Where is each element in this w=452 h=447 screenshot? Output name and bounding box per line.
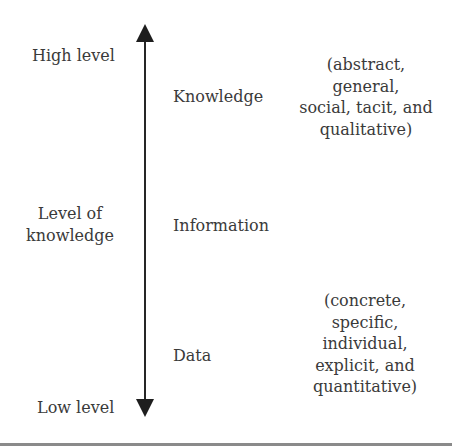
arrow-down-icon <box>136 399 154 417</box>
level-data: Data <box>173 345 211 366</box>
data-desc-line-1: (concrete, <box>302 290 428 312</box>
knowledge-desc-line-1: (abstract, <box>296 54 436 76</box>
knowledge-desc-line-2: general, <box>296 76 436 98</box>
high-level-label: High level <box>32 45 115 66</box>
data-desc-line-2: specific, <box>302 312 428 334</box>
level-knowledge: Knowledge <box>173 86 263 107</box>
low-level-label: Low level <box>37 397 114 418</box>
data-desc-line-4: explicit, and <box>302 355 428 377</box>
arrow-up-icon <box>136 24 154 42</box>
knowledge-desc-line-3: social, tacit, and <box>296 97 436 119</box>
data-description: (concrete, specific, individual, explici… <box>302 290 428 398</box>
axis-title-line-1: Level of <box>22 203 118 225</box>
knowledge-description: (abstract, general, social, tacit, and q… <box>296 54 436 140</box>
data-desc-line-5: quantitative) <box>302 376 428 398</box>
bottom-divider <box>0 443 452 446</box>
knowledge-desc-line-4: qualitative) <box>296 119 436 141</box>
axis-title-line-2: knowledge <box>22 225 118 247</box>
axis-title: Level of knowledge <box>22 203 118 246</box>
data-desc-line-3: individual, <box>302 333 428 355</box>
level-information: Information <box>173 215 269 236</box>
